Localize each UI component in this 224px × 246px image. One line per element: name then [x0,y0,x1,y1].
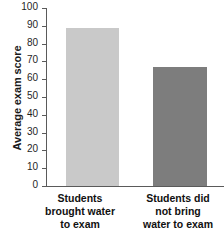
x-category-label-2-line2: not bring [133,205,223,218]
x-axis-line [46,186,224,187]
y-tick-50: 50 [0,97,46,98]
y-tick-70: 70 [0,61,46,62]
y-tick-100: 100 [0,8,46,9]
y-tick-label-80: 80 [27,37,38,49]
y-tick-label-50: 50 [27,90,38,102]
y-tick-60: 60 [0,79,46,80]
x-category-label-1-line3: to exam [36,218,124,231]
y-tick-label-90: 90 [27,19,38,31]
bar-students-did-not-bring-water [153,67,207,186]
y-tick-90: 90 [0,26,46,27]
y-tick-label-0: 0 [32,179,38,191]
x-category-label-2-line3: water to exam [133,218,223,231]
bar-chart: Average exam score 100 90 80 70 60 50 40… [0,0,224,246]
x-category-label-1-line2: brought water [36,205,124,218]
bar-students-brought-water [66,28,119,186]
y-tick-label-70: 70 [27,54,38,66]
y-tick-30: 30 [0,133,46,134]
y-tick-label-100: 100 [21,1,38,13]
y-tick-label-40: 40 [27,108,38,120]
y-tick-label-10: 10 [27,161,38,173]
y-tick-label-60: 60 [27,72,38,84]
y-tick-mark-0 [42,186,46,187]
x-category-label-2: Students did not bring water to exam [133,192,223,231]
x-category-label-1: Students brought water to exam [36,192,124,231]
y-tick-label-30: 30 [27,126,38,138]
y-tick-80: 80 [0,44,46,45]
y-tick-label-20: 20 [27,143,38,155]
y-tick-10: 10 [0,168,46,169]
x-category-label-2-line1: Students did [133,192,223,205]
y-tick-40: 40 [0,115,46,116]
y-tick-20: 20 [0,150,46,151]
plot-area [46,8,218,186]
x-category-label-1-line1: Students [36,192,124,205]
y-tick-0: 0 [0,186,46,187]
